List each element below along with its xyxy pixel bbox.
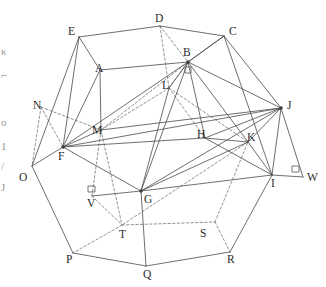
vertex-label-e: E <box>68 26 75 38</box>
edge-bj <box>188 62 281 108</box>
hidden-edge-ts <box>122 222 215 225</box>
hidden-edge-kt <box>122 142 248 225</box>
edge-ki <box>248 142 272 175</box>
hidden-edge-tp <box>73 225 122 253</box>
vertex-dot-f <box>61 145 64 148</box>
edge-ed <box>79 26 160 37</box>
vertex-label-h: H <box>197 129 205 141</box>
edge-ab <box>100 62 188 70</box>
vertex-label-q: Q <box>143 269 151 281</box>
vertex-label-m: M <box>92 125 102 137</box>
edge-dc <box>160 26 224 36</box>
vertex-label-f: F <box>58 151 64 163</box>
vertex-label-w: W <box>307 172 318 184</box>
hidden-edge-vt <box>92 196 122 225</box>
margin-text-fragment: κ <box>1 46 7 57</box>
edge-hi <box>205 138 272 175</box>
edge-iw <box>272 175 303 177</box>
diagram-page: ABCDEFGHIJKLMNOPQRSTVW κ⌐o1/J <box>0 0 326 287</box>
margin-text-fragment: o <box>1 117 7 128</box>
vertex-label-j: J <box>287 100 291 112</box>
edge-gi <box>141 175 272 191</box>
edge-fh <box>63 138 205 147</box>
edge-gv <box>92 191 141 196</box>
edge-ij <box>272 108 281 175</box>
geometric-solid-figure <box>0 0 326 287</box>
vertex-label-o: O <box>19 172 27 184</box>
edge-qr <box>146 252 230 266</box>
margin-text-fragment: 1 <box>1 141 7 152</box>
edge-bf <box>63 62 188 147</box>
right-angle-mark-v <box>88 186 95 192</box>
edge-op <box>32 166 73 253</box>
edge-gk <box>141 142 248 191</box>
edge-am <box>100 70 101 130</box>
edge-lg <box>141 88 169 191</box>
edge-cb <box>188 36 224 62</box>
vertex-label-i: I <box>271 178 275 190</box>
edge-ri <box>230 175 272 252</box>
vertex-label-b: B <box>183 47 191 59</box>
edge-pq <box>73 253 146 266</box>
vertex-label-c: C <box>229 26 237 38</box>
vertex-label-n: N <box>33 100 41 112</box>
right-angle-mark-w <box>292 166 299 172</box>
vertex-label-t: T <box>119 229 126 241</box>
hidden-edge-nf <box>41 107 63 147</box>
vertex-label-l: L <box>162 80 169 92</box>
vertex-label-d: D <box>155 13 163 25</box>
margin-text-fragment: / <box>1 161 4 172</box>
edge-jc <box>224 36 281 108</box>
hidden-edge-no <box>32 107 41 166</box>
vertex-label-v: V <box>87 198 95 210</box>
vertex-label-r: R <box>227 254 235 266</box>
hidden-edge-sr <box>215 222 230 252</box>
vertex-label-g: G <box>144 194 152 206</box>
hidden-edge-lk <box>169 88 248 142</box>
vertex-label-k: K <box>247 132 255 144</box>
vertex-dot-b <box>186 60 189 63</box>
margin-text-fragment: J <box>1 182 5 193</box>
vertex-label-p: P <box>66 254 72 266</box>
vertex-label-a: A <box>95 63 103 75</box>
vertex-label-s: S <box>200 228 206 240</box>
hidden-edge-ml <box>101 88 169 130</box>
vertex-dot-j <box>279 106 282 109</box>
vertex-dot-g <box>139 189 142 192</box>
margin-text-fragment: ⌐ <box>1 70 7 81</box>
edge-ci <box>224 36 272 175</box>
hidden-edge-sk <box>215 142 248 222</box>
edge-fg <box>63 147 141 191</box>
visible-edges-group <box>32 26 303 266</box>
